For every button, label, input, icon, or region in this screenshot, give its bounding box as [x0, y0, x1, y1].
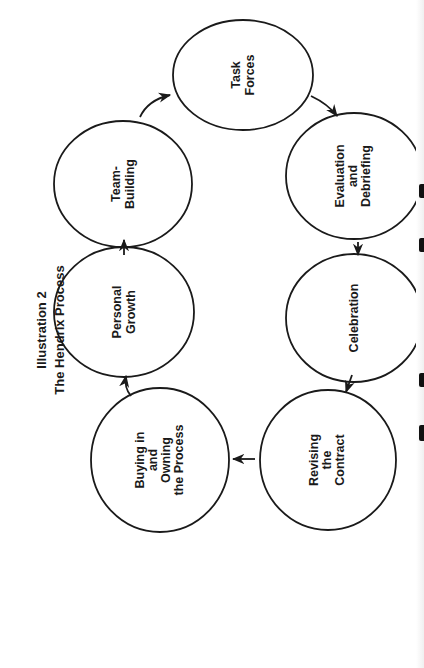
personal-growth-label-2: Growth	[124, 290, 138, 334]
buying-in-label-3: Owning	[159, 437, 173, 483]
team-building-label-1: Team-	[109, 166, 123, 202]
evaluation-label-3: Debriefing	[359, 145, 373, 207]
revising-label-2: the	[320, 451, 334, 470]
node-evaluation: Evaluation and Debriefing	[333, 144, 373, 207]
binding-mark	[419, 425, 424, 441]
task-forces-label-2: Forces	[243, 54, 257, 95]
evaluation-label-1: Evaluation	[333, 144, 347, 207]
arrow-buying-to-personal	[126, 376, 131, 396]
arrow-celebration-to-revising	[346, 375, 352, 392]
node-team-building: Team- Building	[109, 159, 137, 209]
node-personal-growth: Personal Growth	[110, 286, 138, 339]
node-task-forces: Task Forces	[229, 54, 257, 95]
title-line-1: Illustration 2	[34, 291, 49, 368]
arrow-task-to-evaluation	[311, 96, 337, 116]
buying-in-label-2: and	[146, 449, 160, 471]
buying-in-label-1: Buying in	[133, 432, 147, 489]
revising-label-1: Revising	[307, 434, 321, 486]
diagram-title: Illustration 2 The Hendrix Process	[34, 265, 67, 394]
personal-growth-label-1: Personal	[110, 286, 124, 339]
binding-mark	[419, 373, 424, 387]
binding-mark	[419, 184, 424, 198]
hendrix-process-diagram: Illustration 2 The Hendrix Process Task …	[0, 0, 424, 668]
evaluation-label-2: and	[346, 165, 360, 187]
node-celebration: Celebration	[347, 284, 361, 353]
team-building-label-2: Building	[123, 159, 137, 209]
buying-in-label-4: the Process	[172, 425, 186, 496]
revising-label-3: Contract	[333, 433, 347, 485]
arrow-team-to-task	[140, 95, 170, 117]
task-forces-label-1: Task	[229, 61, 243, 89]
binding-mark	[419, 238, 424, 252]
page-edge-shadow	[416, 0, 424, 668]
celebration-label: Celebration	[347, 284, 361, 353]
node-revising: Revising the Contract	[307, 433, 347, 486]
node-buying-in: Buying in and Owning the Process	[133, 425, 186, 496]
